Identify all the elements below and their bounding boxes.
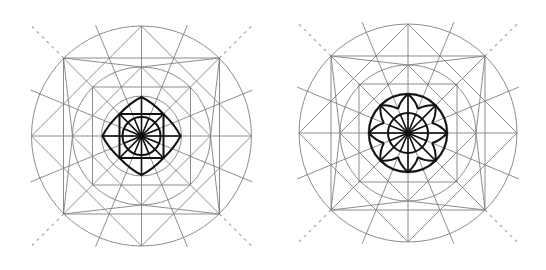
rosette-center-dot: [406, 131, 411, 136]
bold-rosette-motif: [369, 94, 447, 172]
star-construction-line: [142, 58, 220, 67]
star-construction-line: [408, 56, 485, 65]
star-construction-line: [142, 205, 220, 214]
left-construction-panel: [30, 24, 253, 247]
star-construction-line: [476, 133, 485, 210]
dashed-diagonal-line: [219, 214, 253, 248]
star-construction-line: [64, 205, 142, 214]
star-construction-line: [331, 56, 408, 65]
rosette-center-dot: [139, 134, 144, 139]
star-construction-line: [211, 136, 220, 214]
dashed-diagonal-line: [485, 21, 520, 56]
star-construction-line: [64, 58, 142, 67]
dashed-diagonal-line: [30, 24, 64, 58]
rosette-diagonal-link: [120, 114, 129, 123]
dashed-diagonal-line: [296, 210, 331, 245]
petal-rib: [422, 147, 435, 160]
right-construction-panel: [296, 21, 519, 244]
star-construction-line: [211, 58, 220, 136]
dashed-diagonal-line: [30, 214, 64, 248]
rosette-diagonal-link: [120, 149, 129, 158]
rosette-diagonal-link: [155, 149, 164, 158]
star-construction-line: [64, 58, 73, 136]
petal-rib: [380, 147, 393, 160]
petal-rib: [422, 105, 435, 118]
dashed-diagonal-line: [219, 24, 253, 58]
star-construction-line: [476, 56, 485, 133]
star-construction-line: [408, 201, 485, 210]
rosette-diagonal-link: [155, 114, 164, 123]
dashed-diagonal-line: [485, 210, 520, 245]
star-construction-line: [64, 136, 73, 214]
dashed-diagonal-line: [296, 21, 331, 56]
diagram-canvas: [0, 0, 546, 270]
star-construction-line: [331, 201, 408, 210]
star-construction-line: [331, 133, 340, 210]
geometric-construction-diagram: [0, 0, 546, 270]
star-construction-line: [331, 56, 340, 133]
petal-rib: [380, 105, 393, 118]
